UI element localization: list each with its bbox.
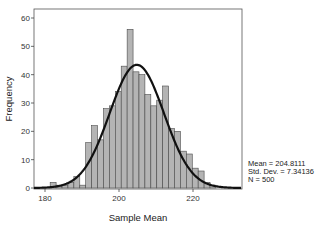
histogram-bar <box>139 75 145 188</box>
y-tick-label: 40 <box>21 71 30 80</box>
histogram-bar <box>163 86 169 188</box>
summary-statistics: Mean = 204.8111 Std. Dev. = 7.34136 N = … <box>248 160 314 184</box>
y-tick-label: 10 <box>21 156 30 165</box>
histogram-bar <box>115 92 121 188</box>
n-label: N = 500 <box>248 176 314 184</box>
histogram-bar <box>127 29 133 188</box>
y-tick-label: 0 <box>26 184 31 193</box>
histogram-bar <box>98 140 104 188</box>
histogram-bar <box>175 131 181 188</box>
y-tick-label: 30 <box>21 99 30 108</box>
histogram-bar <box>133 72 139 188</box>
histogram-bar <box>121 66 127 188</box>
histogram-bar <box>109 106 115 188</box>
y-axis-title: Frequency <box>3 76 14 121</box>
histogram-bar <box>157 100 163 188</box>
y-tick-label: 60 <box>21 14 30 23</box>
y-axis: 0102030405060 <box>21 14 34 193</box>
y-tick-label: 20 <box>21 127 30 136</box>
y-tick-label: 50 <box>21 42 30 51</box>
histogram-bar <box>151 106 157 188</box>
x-axis-title: Sample Mean <box>109 212 168 223</box>
histogram-chart: 0102030405060 180200220 Frequency Sample… <box>0 0 324 228</box>
x-axis: 180200220 <box>38 189 200 203</box>
histogram-bar <box>80 185 86 188</box>
x-tick-label: 220 <box>186 194 200 203</box>
histogram-bar <box>145 95 151 189</box>
x-tick-label: 200 <box>112 194 126 203</box>
x-tick-label: 180 <box>38 194 52 203</box>
